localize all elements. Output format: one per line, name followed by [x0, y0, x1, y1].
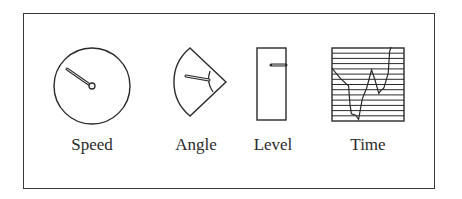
- level-label: Level: [233, 135, 313, 155]
- speed-dial: [54, 48, 130, 124]
- angle-dial: [174, 48, 226, 116]
- sector-inner-arc: [209, 71, 213, 92]
- angle-label: Angle: [156, 135, 236, 155]
- sector-face: [174, 48, 226, 116]
- time-chart: [332, 47, 404, 121]
- time-label: Time: [328, 135, 408, 155]
- time-trace-line: [332, 47, 391, 120]
- needle-pivot: [89, 83, 95, 89]
- speed-label: Speed: [52, 135, 132, 155]
- level-gauge: [257, 48, 286, 120]
- displays-illustration: [0, 0, 462, 199]
- level-tube: [257, 48, 286, 120]
